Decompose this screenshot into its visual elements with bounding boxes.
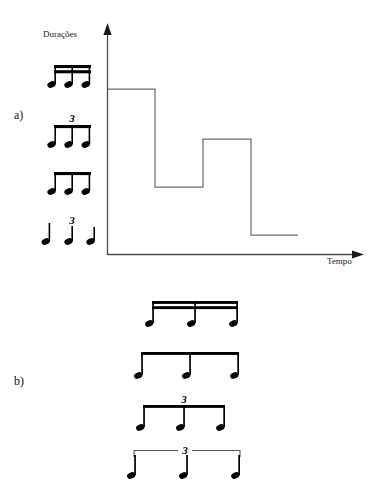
- legend-group-eighth-triple: [46, 172, 91, 196]
- arrow-right-icon: [352, 250, 364, 258]
- tuplet-number-3: 3: [181, 444, 188, 456]
- tuplet-number-3: 3: [180, 393, 187, 405]
- legend-group-eighth-triplet: 3: [46, 112, 91, 149]
- tuplet-number-3: 3: [68, 214, 75, 226]
- panel-b-row-quarter-triplet: 3: [126, 444, 240, 480]
- figure-container: a) Durações Tempo 3: [0, 0, 387, 485]
- legend-group-sixteenth-triple: [46, 65, 91, 89]
- duration-step-line: [108, 89, 298, 235]
- figure-vector-layer: 3 3: [0, 0, 387, 485]
- panel-b-row-sixteenths: [144, 301, 238, 328]
- arrow-up-icon: [103, 23, 111, 35]
- panel-b-row-eighths: [133, 352, 239, 380]
- chart-axes: [103, 23, 364, 259]
- tuplet-number-3: 3: [68, 112, 75, 124]
- legend-group-quarter-triplet: 3: [41, 214, 96, 246]
- panel-label-b: b): [14, 374, 24, 389]
- panel-b-row-eighth-triplet: 3: [135, 393, 225, 432]
- step-plot-series: [108, 89, 298, 235]
